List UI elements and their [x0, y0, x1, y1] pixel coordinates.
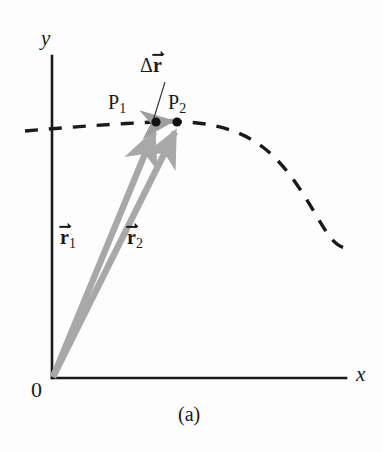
vector-r2 [53, 132, 175, 377]
origin-label: 0 [31, 379, 42, 401]
point-label-p1-text: P [108, 91, 119, 113]
physics-displacement-figure: y x 0 P1 P2 Δr r1 r2 (a) [0, 0, 383, 452]
delta-r-letter: r [153, 54, 162, 76]
point-marker-p1 [151, 117, 160, 126]
point-label-p1: P1 [108, 92, 126, 116]
r1-subscript: 1 [69, 236, 76, 251]
point-label-p2-text: P [168, 91, 179, 113]
figure-canvas [0, 0, 383, 452]
delta-r-label: Δr [140, 55, 162, 75]
delta-r-leader-line [153, 82, 165, 121]
figure-caption: (a) [178, 404, 200, 424]
delta-r-vector-glyph: r [153, 55, 162, 75]
point-label-p2: P2 [168, 92, 186, 116]
r2-letter: r [127, 226, 136, 248]
vector-label-r1: r1 [60, 227, 76, 251]
delta-symbol: Δ [140, 54, 153, 76]
r1-vector-glyph: r [60, 227, 69, 247]
r1-letter: r [60, 226, 69, 248]
x-axis-label: x [356, 364, 365, 385]
point-label-p2-subscript: 2 [179, 101, 186, 116]
y-axis-label: y [41, 28, 50, 49]
r2-vector-glyph: r [127, 227, 136, 247]
r2-subscript: 2 [136, 236, 143, 251]
point-marker-p2 [172, 117, 181, 126]
point-label-p1-subscript: 1 [119, 101, 126, 116]
vector-label-r2: r2 [127, 227, 143, 251]
